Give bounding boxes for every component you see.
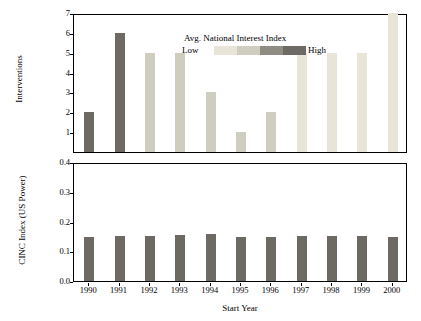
bar xyxy=(297,236,307,281)
legend-swatch-0 xyxy=(214,46,237,55)
x-tick-mark xyxy=(240,283,241,286)
cinc-index-axis-title: CINC Index (US Power) xyxy=(17,150,27,290)
y-tick-label: 0.0 xyxy=(46,277,70,286)
x-tick-mark xyxy=(149,283,150,286)
y-tick-mark xyxy=(70,93,73,94)
bar xyxy=(236,237,246,281)
x-tick-mark xyxy=(88,283,89,286)
x-tick-mark xyxy=(210,283,211,286)
legend-swatches xyxy=(214,46,306,55)
y-tick-mark xyxy=(70,133,73,134)
legend-high-label: High xyxy=(308,46,326,55)
interventions-plot-area: Avg. National Interest Index Low High xyxy=(73,14,407,153)
bar xyxy=(84,237,94,281)
bar xyxy=(175,53,185,152)
legend: Avg. National Interest Index Low High xyxy=(184,33,344,65)
y-tick-mark xyxy=(70,113,73,114)
bar xyxy=(266,237,276,281)
x-tick-mark xyxy=(331,283,332,286)
bar xyxy=(357,236,367,281)
bar xyxy=(327,53,337,152)
y-tick-mark xyxy=(70,223,73,224)
bar xyxy=(266,112,276,152)
y-tick-label: 0.2 xyxy=(46,218,70,227)
bar xyxy=(115,33,125,152)
cinc-index-y-axis-ticks: 0.00.10.20.30.4 xyxy=(44,0,70,321)
legend-swatch-1 xyxy=(237,46,260,55)
bar xyxy=(145,53,155,152)
y-tick-mark xyxy=(70,193,73,194)
bar xyxy=(84,112,94,152)
y-tick-mark xyxy=(70,34,73,35)
x-axis-tick-labels: 1990199119921993199419951996199719981999… xyxy=(73,286,407,298)
legend-swatch-3 xyxy=(283,46,306,55)
cinc-index-plot-area xyxy=(73,163,407,282)
y-tick-mark xyxy=(70,252,73,253)
bar xyxy=(175,235,185,281)
x-tick-label: 2000 xyxy=(372,286,412,295)
x-axis-title: Start Year xyxy=(73,303,407,313)
legend-title: Avg. National Interest Index xyxy=(184,33,344,43)
bar xyxy=(297,53,307,152)
interventions-axis-title: Interventions xyxy=(14,19,24,139)
y-tick-mark xyxy=(70,14,73,15)
cinc-index-bars xyxy=(74,164,406,281)
bar xyxy=(206,92,216,152)
bar xyxy=(388,237,398,281)
y-tick-mark xyxy=(70,282,73,283)
x-tick-mark xyxy=(179,283,180,286)
bar xyxy=(206,234,216,281)
y-tick-label: 0.3 xyxy=(46,188,70,197)
bar xyxy=(115,236,125,281)
y-tick-mark xyxy=(70,163,73,164)
y-tick-label: 0.1 xyxy=(46,247,70,256)
bar xyxy=(327,236,337,281)
y-tick-label: 0.4 xyxy=(46,158,70,167)
bar xyxy=(357,53,367,152)
x-tick-mark xyxy=(361,283,362,286)
legend-low-label: Low xyxy=(182,46,199,55)
chart-figure: Avg. National Interest Index Low High 12… xyxy=(0,0,421,321)
y-tick-mark xyxy=(70,54,73,55)
legend-swatch-2 xyxy=(260,46,283,55)
bar xyxy=(236,132,246,152)
bar xyxy=(388,13,398,152)
x-tick-mark xyxy=(392,283,393,286)
bar xyxy=(145,236,155,281)
y-tick-mark xyxy=(70,74,73,75)
x-tick-mark xyxy=(119,283,120,286)
x-tick-mark xyxy=(301,283,302,286)
x-tick-mark xyxy=(270,283,271,286)
